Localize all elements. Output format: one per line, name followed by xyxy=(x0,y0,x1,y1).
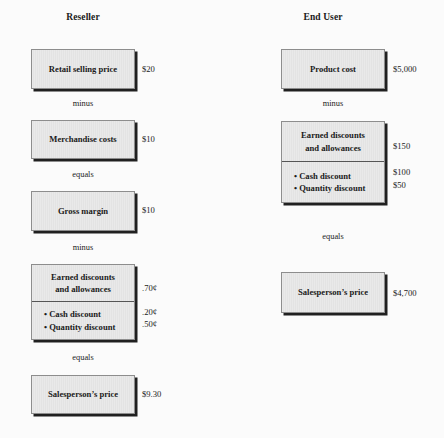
box-earned-discounts-and-allowances: Earned discounts and allowances • Cash d… xyxy=(281,121,385,203)
box-label: Product cost xyxy=(310,63,356,76)
value-salespersons-price: $9.30 xyxy=(142,388,161,401)
column-end-user: End User Product cost $5,000 minus Earne… xyxy=(222,0,444,438)
box-label: Salesperson’s price xyxy=(48,388,118,401)
bullet-cash-discount: • Cash discount xyxy=(286,170,380,183)
value-product-cost: $5,000 xyxy=(393,63,417,76)
box-section: Gross margin xyxy=(32,192,134,230)
box-section: Salesperson’s price xyxy=(282,273,384,312)
box-section: Retail selling price xyxy=(32,50,134,88)
bullet-cash-discount: • Cash discount xyxy=(36,308,130,321)
operator-label-equals-2: equals xyxy=(31,353,135,362)
operator-label-equals-1: equals xyxy=(31,170,135,179)
box-section-heading: Earned discounts and allowances xyxy=(32,265,134,301)
price-structure-diagram: Reseller Retail selling price $20 minus … xyxy=(0,0,444,438)
box-section-bullets: • Cash discount • Quantity discount xyxy=(282,161,384,202)
box-section: Product cost xyxy=(282,50,384,88)
box-earned-discounts-and-allowances: Earned discounts and allowances • Cash d… xyxy=(31,264,135,340)
box-label: and allowances xyxy=(305,142,361,155)
box-label: Gross margin xyxy=(58,205,108,218)
value-quantity-discount: .50¢ xyxy=(142,318,157,331)
value-retail-selling-price: $20 xyxy=(142,63,155,76)
box-gross-margin: Gross margin xyxy=(31,191,135,231)
value-earned-discounts-total: $150 xyxy=(393,140,410,153)
operator-label-minus-1: minus xyxy=(31,99,135,108)
value-cash-discount: .20¢ xyxy=(142,306,157,319)
value-merchandise-costs: $10 xyxy=(142,133,155,146)
box-label: Retail selling price xyxy=(49,63,117,76)
box-section-heading: Earned discounts and allowances xyxy=(282,122,384,161)
value-gross-margin: $10 xyxy=(142,204,155,217)
column-header-end-user: End User xyxy=(212,12,434,22)
value-earned-discounts-total: .70¢ xyxy=(142,282,157,295)
box-merchandise-costs: Merchandise costs xyxy=(31,120,135,159)
value-quantity-discount: $50 xyxy=(393,179,406,192)
bullet-quantity-discount: • Quantity discount xyxy=(36,321,130,334)
operator-label-minus-2: minus xyxy=(31,243,135,252)
operator-label-equals-1: equals xyxy=(281,232,385,241)
box-salespersons-price: Salesperson’s price xyxy=(31,375,135,414)
value-cash-discount: $100 xyxy=(393,166,410,179)
box-section: Salesperson’s price xyxy=(32,376,134,413)
box-label: Earned discounts xyxy=(301,129,365,142)
box-section: Merchandise costs xyxy=(32,121,134,158)
box-label: Salesperson’s price xyxy=(298,286,368,299)
column-reseller: Reseller Retail selling price $20 minus … xyxy=(0,0,222,438)
box-product-cost: Product cost xyxy=(281,49,385,89)
box-label: Merchandise costs xyxy=(49,133,116,146)
box-section-bullets: • Cash discount • Quantity discount xyxy=(32,301,134,339)
value-salespersons-price: $4,700 xyxy=(393,287,417,300)
operator-label-minus-1: minus xyxy=(281,99,385,108)
box-label: Earned discounts xyxy=(51,271,115,284)
box-retail-selling-price: Retail selling price xyxy=(31,49,135,89)
box-salespersons-price: Salesperson’s price xyxy=(281,272,385,313)
bullet-quantity-discount: • Quantity discount xyxy=(286,182,380,195)
box-label: and allowances xyxy=(55,283,111,296)
column-header-reseller: Reseller xyxy=(0,12,194,22)
